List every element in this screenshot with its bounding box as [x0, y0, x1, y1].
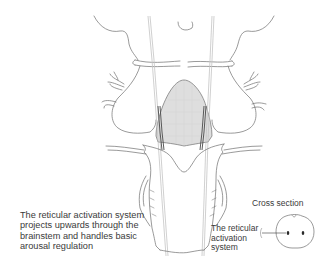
ras-dot-right [302, 231, 305, 235]
upper-left-contour [94, 16, 138, 60]
cross-section-outline [276, 215, 314, 249]
ras-label: The reticular activation system [211, 224, 258, 253]
brainstem-diagram: The reticular activation system projects… [0, 0, 326, 264]
right-lobe [212, 66, 256, 133]
ras-dot-left [287, 231, 290, 235]
main-caption: The reticular activation system projects… [20, 210, 170, 251]
band-top-left [135, 60, 180, 62]
upper-right-contour [230, 16, 274, 60]
cross-section-title: Cross section [252, 198, 304, 208]
cross-section-diagram [261, 215, 315, 249]
left-lobe [112, 66, 156, 133]
band-bottom-left [135, 65, 180, 67]
top-notch [178, 22, 193, 30]
pons-lower-v [143, 144, 224, 172]
